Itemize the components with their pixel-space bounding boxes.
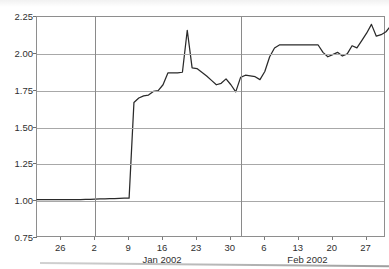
x-tick-label: 13 <box>292 242 303 253</box>
x-tick-mark <box>366 237 367 240</box>
x-tick-mark <box>128 237 129 240</box>
x-axis-month-label: Feb 2002 <box>287 254 327 265</box>
y-tick-label: 2.25 <box>3 11 33 22</box>
x-tick-label: 27 <box>360 242 371 253</box>
x-tick-mark <box>298 237 299 240</box>
y-tick-label: 1.25 <box>3 158 33 169</box>
x-tick-mark <box>60 237 61 240</box>
gridline-horizontal <box>37 128 384 129</box>
gridline-vertical-month-boundary <box>95 17 96 236</box>
gridline-horizontal <box>37 201 384 202</box>
x-tick-label: 26 <box>55 242 66 253</box>
y-axis: 0.751.001.251.501.752.002.25 <box>0 16 33 237</box>
x-tick-label: 9 <box>125 242 130 253</box>
x-tick-label: 2 <box>92 242 97 253</box>
y-tick-label: 0.75 <box>3 232 33 243</box>
gridline-horizontal <box>37 164 384 165</box>
x-tick-mark <box>162 237 163 240</box>
chart-title <box>36 0 296 5</box>
y-tick-label: 1.00 <box>3 195 33 206</box>
x-tick-label: 6 <box>261 242 266 253</box>
x-tick-label: 23 <box>191 242 202 253</box>
x-tick-mark <box>196 237 197 240</box>
x-tick-mark <box>230 237 231 240</box>
gridline-horizontal <box>37 54 384 55</box>
y-tick-label: 1.75 <box>3 84 33 95</box>
x-tick-label: 20 <box>326 242 337 253</box>
x-tick-mark <box>264 237 265 240</box>
plot-area <box>36 16 385 237</box>
gridline-vertical-month-boundary <box>241 17 242 236</box>
gridline-horizontal <box>37 91 384 92</box>
x-tick-label: 16 <box>157 242 168 253</box>
y-tick-label: 1.50 <box>3 121 33 132</box>
x-tick-label: 30 <box>225 242 236 253</box>
x-tick-mark <box>332 237 333 240</box>
line-chart-figure: 0.751.001.251.501.752.002.25 26291623306… <box>0 0 389 269</box>
x-tick-mark <box>94 237 95 240</box>
y-tick-label: 2.00 <box>3 47 33 58</box>
